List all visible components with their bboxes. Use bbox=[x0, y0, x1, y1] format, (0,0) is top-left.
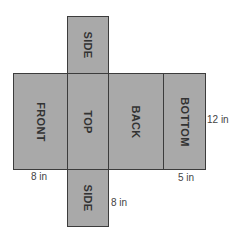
bottom-width-dimension: 5 in bbox=[178, 172, 194, 183]
side-bottom-label: SIDE bbox=[82, 185, 94, 212]
back-face: BACK bbox=[108, 73, 164, 170]
back-label: BACK bbox=[130, 105, 142, 138]
top-face: TOP bbox=[67, 73, 109, 170]
side-bottom-face: SIDE bbox=[67, 169, 109, 227]
front-width-dimension: 8 in bbox=[31, 171, 47, 182]
side-height-dimension: 8 in bbox=[111, 197, 127, 208]
top-label: TOP bbox=[82, 110, 94, 133]
side-top-label: SIDE bbox=[82, 32, 94, 59]
bottom-label: BOTTOM bbox=[179, 97, 191, 146]
front-face: FRONT bbox=[13, 73, 68, 170]
bottom-face: BOTTOM bbox=[163, 73, 206, 170]
front-label: FRONT bbox=[34, 102, 46, 141]
height-dimension: 12 in bbox=[207, 114, 229, 125]
side-top-face: SIDE bbox=[67, 16, 109, 74]
